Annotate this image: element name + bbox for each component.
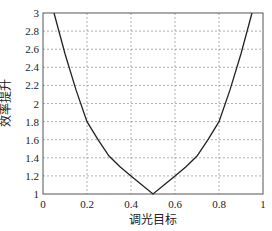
y-tick-label: 1.8	[25, 116, 39, 128]
x-tick-label: 0	[40, 198, 46, 210]
x-tick-labels: 00.20.40.60.81	[40, 198, 266, 210]
y-tick-label: 1.4	[25, 152, 39, 164]
grid-lines	[43, 13, 263, 194]
y-tick-label: 1	[34, 188, 40, 200]
y-tick-label: 2.4	[25, 61, 39, 73]
y-tick-label: 1.2	[25, 170, 39, 182]
y-tick-label: 2.6	[25, 43, 39, 55]
x-tick-label: 1	[260, 198, 266, 210]
y-tick-label: 2.2	[25, 79, 39, 91]
y-tick-label: 3	[34, 7, 40, 19]
x-tick-label: 0.6	[168, 198, 182, 210]
y-tick-labels: 11.21.41.61.822.22.42.62.83	[25, 7, 39, 200]
x-tick-label: 0.4	[124, 198, 138, 210]
y-tick-label: 2.8	[25, 25, 39, 37]
y-tick-label: 1.6	[25, 134, 39, 146]
efficiency-chart: 00.20.40.60.81 11.21.41.61.822.22.42.62.…	[0, 0, 272, 231]
x-tick-label: 0.2	[80, 198, 94, 210]
x-axis-label: 调光目标	[129, 213, 177, 227]
x-tick-label: 0.8	[212, 198, 226, 210]
y-tick-label: 2	[34, 98, 40, 110]
y-axis-label: 效率提升	[0, 79, 13, 127]
